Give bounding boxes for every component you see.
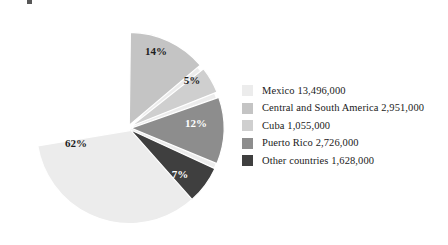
pie-slice-percent-label: 5% (184, 74, 201, 86)
legend-label: Mexico 13,496,000 (262, 85, 346, 97)
pie-slice-percent-label: 7% (172, 168, 189, 180)
legend-row[interactable]: Cuba 1,055,000 (242, 117, 446, 135)
legend-row[interactable]: Other countries 1,628,000 (242, 152, 446, 170)
legend-color-swatch (242, 103, 253, 114)
legend-row[interactable]: Puerto Rico 2,726,000 (242, 135, 446, 153)
legend-color-swatch (242, 85, 253, 96)
pie-chart-figure: 62%14%5%12%7% Mexico 13,496,000Central a… (0, 0, 448, 245)
pie-slice-percent-label: 14% (145, 45, 167, 57)
legend-label: Other countries 1,628,000 (262, 155, 374, 167)
chart-legend: Mexico 13,496,000Central and South Ameri… (242, 82, 446, 170)
pie-slice-percent-label: 62% (65, 137, 87, 149)
legend-color-swatch (242, 138, 253, 149)
legend-label: Central and South America 2,951,000 (262, 102, 424, 114)
pie-slice-percent-label: 12% (185, 117, 207, 129)
legend-row[interactable]: Central and South America 2,951,000 (242, 100, 446, 118)
pie-chart-svg: 62%14%5%12%7% (0, 0, 240, 245)
legend-row[interactable]: Mexico 13,496,000 (242, 82, 446, 100)
legend-label: Puerto Rico 2,726,000 (262, 137, 359, 149)
legend-color-swatch (242, 120, 253, 131)
legend-color-swatch (242, 155, 253, 166)
pie-chart-area: 62%14%5%12%7% (0, 0, 240, 245)
legend-label: Cuba 1,055,000 (262, 120, 330, 132)
